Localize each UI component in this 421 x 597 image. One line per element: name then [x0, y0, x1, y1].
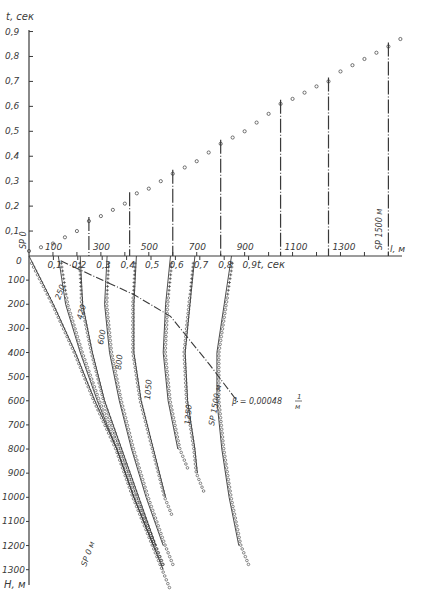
- vsp-point: [226, 470, 229, 473]
- vsp-point: [62, 273, 65, 276]
- vsp-point: [115, 374, 118, 377]
- curve-label: 420: [75, 303, 88, 320]
- vsp-point: [63, 281, 66, 284]
- vsp-point: [231, 501, 234, 504]
- vsp-point: [108, 331, 111, 334]
- curve-labels: 25042060080010501250: [53, 283, 193, 425]
- h-tick-label: 1000: [2, 492, 25, 502]
- h-tick-label: 200: [8, 299, 25, 309]
- vsp-point: [228, 281, 231, 284]
- vsp-point: [172, 416, 175, 419]
- vsp-point: [156, 521, 159, 524]
- vsp-point: [226, 293, 229, 296]
- l-tick-label: 1300: [332, 242, 355, 252]
- vsp-point: [228, 482, 231, 485]
- vsp-point: [169, 397, 172, 400]
- vsp-point: [223, 451, 226, 454]
- vsp-point: [218, 355, 221, 358]
- t-bottom-axis-title: t, сек: [257, 259, 285, 270]
- vsp-point: [227, 289, 230, 292]
- hodograph-point: [399, 37, 402, 40]
- vsp-point: [181, 455, 184, 458]
- h-tick-label: 700: [8, 420, 25, 430]
- vsp-point: [221, 432, 224, 435]
- vsp-point: [106, 312, 109, 315]
- vsp-point: [107, 316, 110, 319]
- vsp-point: [219, 343, 222, 346]
- vsp-point: [169, 401, 172, 404]
- vsp-point: [160, 532, 163, 535]
- vsp-point: [134, 455, 137, 458]
- l-tick-label: 1100: [285, 242, 308, 252]
- vsp-point: [97, 397, 100, 400]
- vsp-point: [153, 513, 156, 516]
- vsp-point: [170, 559, 173, 562]
- vsp-point: [107, 320, 110, 323]
- vsp-point: [228, 486, 231, 489]
- hodograph-point: [267, 112, 270, 115]
- vsp-point: [232, 509, 235, 512]
- vsp-point: [137, 463, 140, 466]
- vsp-point: [105, 304, 108, 307]
- vsp-point: [119, 397, 122, 400]
- vsp-point: [88, 370, 91, 373]
- vsp-point: [236, 528, 239, 531]
- tb-tick-label: 0,5: [145, 260, 160, 270]
- vsp-point: [234, 517, 237, 520]
- vsp-point: [157, 524, 160, 527]
- vsp-point: [225, 467, 228, 470]
- h-tick-label: 1100: [2, 516, 25, 526]
- vsp-point: [169, 277, 172, 280]
- vsp-point: [165, 320, 168, 323]
- vsp-point: [167, 582, 170, 585]
- vsp-point: [226, 474, 229, 477]
- vsp-point: [236, 524, 239, 527]
- vsp-point: [229, 490, 232, 493]
- t-tick-label: 0,9: [5, 27, 20, 37]
- vsp-point: [165, 366, 168, 369]
- vsp-point: [106, 308, 109, 311]
- vsp-point: [220, 428, 223, 431]
- vsp-point: [165, 548, 168, 551]
- vsp-point: [67, 304, 70, 307]
- vsp-point: [127, 428, 130, 431]
- vsp-point: [162, 571, 165, 574]
- h-tick-label: 500: [8, 372, 25, 382]
- vsp-point: [164, 497, 167, 500]
- hodograph-point: [351, 64, 354, 67]
- vsp-point: [224, 459, 227, 462]
- vsp-point: [246, 559, 249, 562]
- vsp-point: [164, 544, 167, 547]
- vsp-point: [109, 343, 112, 346]
- vsp-point: [241, 548, 244, 551]
- vsp-point: [117, 385, 120, 388]
- vsp-point: [143, 482, 146, 485]
- vsp-point: [168, 281, 171, 284]
- vsp-point: [100, 405, 103, 408]
- vsp-point: [221, 328, 224, 331]
- zero-label: 0: [16, 256, 22, 266]
- sp0-label: SP 0: [19, 231, 28, 249]
- hodograph-point: [243, 130, 246, 133]
- curve-label: 1250: [183, 404, 194, 425]
- vsp-point: [168, 586, 171, 589]
- vsp-point: [224, 455, 227, 458]
- vsp-point: [199, 482, 202, 485]
- vsp-point: [125, 420, 128, 423]
- hodograph-point: [135, 192, 138, 195]
- vsp-point: [198, 478, 201, 481]
- vsp-point: [75, 331, 78, 334]
- hodograph-point: [207, 151, 210, 154]
- h-axis-title: H, м: [4, 579, 26, 590]
- vsp-point: [239, 544, 242, 547]
- vsp-point: [138, 467, 141, 470]
- vsp-point: [176, 436, 179, 439]
- vsp-point: [170, 405, 173, 408]
- vsp-point: [82, 355, 85, 358]
- vsp-point: [165, 362, 168, 365]
- l-axis-title: l, м: [390, 244, 405, 254]
- vsp-point: [242, 551, 245, 554]
- vsp-point: [109, 335, 112, 338]
- h-tick-label: 300: [8, 323, 25, 333]
- l-axis-ticks: 10030050070090011001300: [45, 242, 388, 256]
